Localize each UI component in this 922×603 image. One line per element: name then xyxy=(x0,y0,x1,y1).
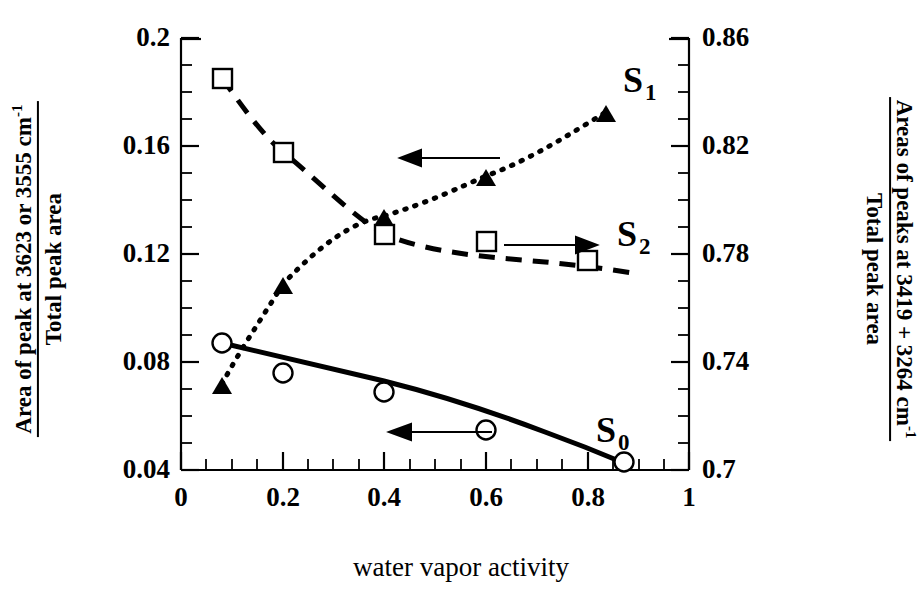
y-right-tick-0.82: 0.82 xyxy=(702,132,749,159)
series-label-s1-text: S xyxy=(623,60,643,100)
y-axis-right-title-superscript: -1 xyxy=(903,426,919,439)
series-label-s2-sub: 2 xyxy=(639,234,651,259)
x-tick-0.2: 0.2 xyxy=(243,484,323,511)
y-axis-left-title-denominator: Total peak area xyxy=(39,102,67,437)
y-axis-left-title-numerator: Area of peak at 3623 or 3555 cm-1 xyxy=(9,102,39,437)
left-axis-major-ticks xyxy=(181,38,199,470)
y-right-tick-0.7: 0.7 xyxy=(702,456,736,483)
y-axis-left-title: Area of peak at 3623 or 3555 cm-1 Total … xyxy=(9,19,67,519)
y-axis-left-title-superscript: -1 xyxy=(9,105,25,118)
y-axis-left-title-fraction: Area of peak at 3623 or 3555 cm-1 Total … xyxy=(9,102,67,437)
x-tick-0.6: 0.6 xyxy=(446,484,526,511)
y-axis-right-title-denominator: Total peak area xyxy=(861,97,889,442)
y-axis-right-title: Areas of peaks at 3419 + 3264 cm-1 Total… xyxy=(861,19,919,519)
series-markers-s1 xyxy=(212,105,616,394)
y-left-tick-0.08: 0.08 xyxy=(88,348,170,375)
plot-frame xyxy=(181,38,689,470)
series-label-s2-text: S xyxy=(617,214,637,254)
y-left-tick-0.04: 0.04 xyxy=(88,456,170,483)
arrow-s1-to-left-axis xyxy=(400,150,500,166)
x-tick-1: 1 xyxy=(659,484,719,511)
y-left-tick-0.12: 0.12 xyxy=(88,240,170,267)
arrow-s2-to-right-axis xyxy=(504,237,597,253)
y-right-tick-0.86: 0.86 xyxy=(702,24,749,51)
series-label-s0-text: S xyxy=(596,410,616,450)
x-tick-0.8: 0.8 xyxy=(548,484,628,511)
chart-figure: 0.2 0.16 0.12 0.08 0.04 0.86 0.82 0.78 0… xyxy=(0,0,922,603)
x-tick-0: 0 xyxy=(151,484,211,511)
x-axis-title: water vapor activity xyxy=(0,552,922,583)
series-label-s0: S0 xyxy=(596,412,628,448)
x-axis-minor-ticks xyxy=(206,459,664,470)
y-right-tick-0.74: 0.74 xyxy=(702,348,749,375)
series-line-s0 xyxy=(222,343,624,463)
series-label-s1: S1 xyxy=(623,62,655,98)
y-left-tick-0.16: 0.16 xyxy=(88,132,170,159)
series-label-s1-sub: 1 xyxy=(645,80,657,105)
right-axis-major-ticks xyxy=(671,38,689,470)
series-label-s0-sub: 0 xyxy=(618,430,630,455)
plot-canvas xyxy=(0,0,922,603)
y-left-tick-0.2: 0.2 xyxy=(108,24,170,51)
y-axis-right-title-numerator: Areas of peaks at 3419 + 3264 cm-1 xyxy=(889,97,919,442)
y-right-tick-0.78: 0.78 xyxy=(702,240,749,267)
series-label-s2: S2 xyxy=(617,216,649,252)
y-axis-right-title-fraction: Areas of peaks at 3419 + 3264 cm-1 Total… xyxy=(861,97,919,442)
x-tick-0.4: 0.4 xyxy=(344,484,424,511)
